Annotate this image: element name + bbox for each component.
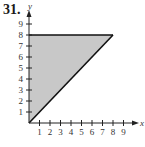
y-tick-labels: 1 2 3 4 5 6 7 8 9 <box>19 19 24 117</box>
x-tick-label: 1 <box>37 127 42 137</box>
y-tick-label: 3 <box>19 85 24 95</box>
y-tick-label: 7 <box>19 41 24 51</box>
x-tick-labels: 1 2 3 4 5 6 7 8 9 <box>37 127 126 137</box>
y-tick-label: 5 <box>19 63 24 73</box>
x-tick-label: 9 <box>121 127 126 137</box>
y-axis-arrow-icon <box>27 10 32 17</box>
x-tick-label: 8 <box>111 127 116 137</box>
y-tick-label: 1 <box>19 107 24 117</box>
y-tick-label: 2 <box>19 96 24 106</box>
x-tick-label: 7 <box>100 127 105 137</box>
y-axis-label: y <box>27 1 32 11</box>
y-tick-label: 6 <box>19 52 24 62</box>
x-tick-label: 3 <box>58 127 63 137</box>
y-tick-label: 9 <box>19 19 24 29</box>
chart: 1 2 3 4 5 6 7 8 9 1 2 3 4 5 6 7 8 9 x y <box>0 0 145 147</box>
y-tick-label: 8 <box>19 30 24 40</box>
x-tick-label: 5 <box>79 127 84 137</box>
x-tick-label: 4 <box>69 127 74 137</box>
x-axis-label: x <box>139 118 144 128</box>
x-tick-label: 2 <box>48 127 53 137</box>
x-axis-arrow-icon <box>132 121 139 126</box>
x-tick-label: 6 <box>90 127 95 137</box>
y-tick-label: 4 <box>19 74 24 84</box>
